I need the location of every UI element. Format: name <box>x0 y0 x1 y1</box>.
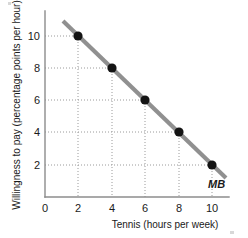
y-axis-title: Willingness to pay (percentage points pe… <box>11 0 22 210</box>
y-tick-label-4: 4 <box>34 126 40 138</box>
data-point-10-2 <box>207 160 216 169</box>
y-tick-label-8: 8 <box>34 62 40 74</box>
x-tick-label-8: 8 <box>176 202 182 214</box>
mb-curve-label: MB <box>208 178 225 190</box>
x-tick-label-2: 2 <box>75 202 81 214</box>
x-tick-label-4: 4 <box>109 202 115 214</box>
x-axis-title: Tennis (hours per week) <box>112 219 219 230</box>
y-tick-label-6: 6 <box>34 94 40 106</box>
data-point-2-10 <box>73 31 82 40</box>
horizontal-gridlines <box>45 36 212 165</box>
data-point-4-8 <box>107 63 116 72</box>
x-tick-label-6: 6 <box>142 202 148 214</box>
data-point-6-6 <box>140 95 149 104</box>
data-point-8-4 <box>174 127 183 136</box>
chart-canvas: 10 8 6 4 2 0 2 4 6 8 10 MB Tennis (hours… <box>0 0 248 238</box>
x-tick-label-10: 10 <box>206 202 218 214</box>
scan-artifact <box>230 231 234 234</box>
x-tick-labels: 0 2 4 6 8 10 <box>42 202 218 214</box>
y-tick-label-2: 2 <box>34 159 40 171</box>
vertical-gridlines <box>78 36 212 197</box>
y-tick-label-10: 10 <box>28 30 40 42</box>
x-tick-label-0: 0 <box>42 202 48 214</box>
y-tick-labels: 10 8 6 4 2 <box>28 30 40 171</box>
marginal-benefit-chart: 10 8 6 4 2 0 2 4 6 8 10 MB Tennis (hours… <box>0 0 248 238</box>
